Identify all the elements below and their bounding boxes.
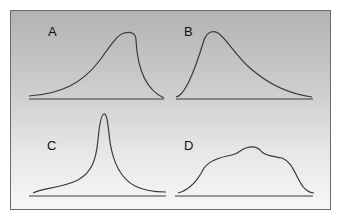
panel-c-curve bbox=[29, 114, 166, 196]
panel-b-curve bbox=[176, 32, 313, 99]
panel-a-curve bbox=[29, 32, 164, 99]
panel-d-curve bbox=[175, 147, 314, 196]
distribution-curves bbox=[0, 0, 340, 220]
